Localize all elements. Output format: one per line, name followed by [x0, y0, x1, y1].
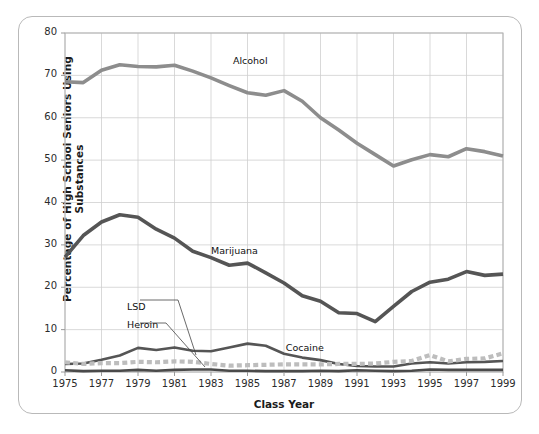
x-tick-label: 1995	[410, 378, 450, 389]
y-tick-label: 60	[31, 111, 57, 122]
y-tick-label: 10	[31, 323, 57, 334]
x-tick-label: 1997	[447, 378, 487, 389]
series-label-marijuana: Marijuana	[211, 245, 258, 256]
y-tick-label: 50	[31, 153, 57, 164]
x-tick-label: 1977	[82, 378, 122, 389]
x-axis-title: Class Year	[65, 398, 503, 410]
y-tick-label: 80	[31, 26, 57, 37]
y-tick-label: 70	[31, 68, 57, 79]
x-tick-label: 1981	[155, 378, 195, 389]
x-tick-label: 1983	[191, 378, 231, 389]
x-tick-label: 1999	[483, 378, 523, 389]
y-tick-label: 0	[31, 365, 57, 376]
chart-frame: Percentage of High School Seniors Using …	[0, 0, 539, 434]
x-tick-label: 1993	[374, 378, 414, 389]
series-label-heroin: Heroin	[127, 319, 158, 330]
x-tick-label: 1975	[45, 378, 85, 389]
series-label-cocaine: Cocaine	[286, 342, 324, 353]
y-tick-label: 30	[31, 238, 57, 249]
y-tick-label: 20	[31, 280, 57, 291]
series-label-lsd: LSD	[127, 301, 146, 312]
chart-svg	[0, 0, 539, 434]
x-tick-label: 1989	[301, 378, 341, 389]
y-tick-label: 40	[31, 196, 57, 207]
plot-area: 01020304050607080 1975197719791981198319…	[0, 0, 539, 434]
series-label-alcohol: Alcohol	[233, 55, 268, 66]
x-tick-label: 1987	[264, 378, 304, 389]
x-tick-label: 1985	[228, 378, 268, 389]
x-tick-label: 1991	[337, 378, 377, 389]
leader-lines	[140, 300, 205, 367]
x-tick-label: 1979	[118, 378, 158, 389]
